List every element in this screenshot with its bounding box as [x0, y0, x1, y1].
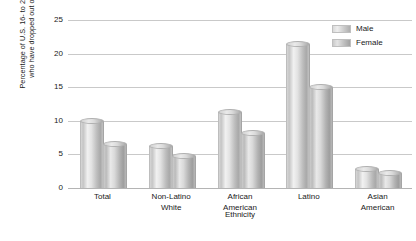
gridline	[68, 87, 412, 88]
y-tick-label: 5	[43, 150, 63, 158]
legend-swatch-female-icon	[332, 39, 351, 47]
bar-male-total	[80, 121, 104, 188]
bar-female-latino	[309, 87, 333, 188]
bar-male-asian-american	[355, 169, 379, 188]
legend-label-male: Male	[356, 24, 373, 33]
dropout-rate-bar-chart: Percentage of U.S. 16- to 24-year-olds w…	[0, 0, 416, 241]
bar-cap	[218, 109, 242, 115]
y-axis-title: Percentage of U.S. 16- to 24-year-olds w…	[18, 0, 42, 116]
bar-male-non-latino-white	[149, 146, 173, 188]
bar-female-total	[103, 144, 127, 188]
bar-cap	[286, 41, 310, 47]
bar-cap	[378, 170, 402, 176]
y-tick-label: 20	[43, 50, 63, 58]
axis-baseline	[68, 188, 412, 189]
chart-legend: Male Female	[332, 24, 416, 52]
bar-cap	[172, 153, 196, 159]
bar-cap	[149, 143, 173, 149]
bar-female-asian-american	[378, 173, 402, 188]
bar-cap	[355, 166, 379, 172]
legend-item-female: Female	[332, 38, 416, 47]
y-tick-label: 15	[43, 83, 63, 91]
bar-female-non-latino-white	[172, 156, 196, 188]
y-tick-label: 10	[43, 117, 63, 125]
legend-label-female: Female	[356, 38, 383, 47]
bar-cap	[103, 141, 127, 147]
bar-cap	[309, 84, 333, 90]
y-tick-label: 0	[43, 184, 63, 192]
y-tick-label: 25	[43, 16, 63, 24]
legend-swatch-male-icon	[332, 25, 351, 33]
bar-cap	[80, 118, 104, 124]
x-axis-title: Ethnicity	[68, 210, 412, 219]
gridline	[68, 20, 412, 21]
bar-male-latino	[286, 44, 310, 188]
legend-item-male: Male	[332, 24, 416, 33]
bar-male-african-american	[218, 112, 242, 188]
gridline	[68, 54, 412, 55]
bar-female-african-american	[241, 133, 265, 188]
bar-cap	[241, 130, 265, 136]
